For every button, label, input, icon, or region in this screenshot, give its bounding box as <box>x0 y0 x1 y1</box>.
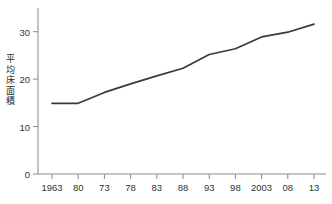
x-tick-label-3: 78 <box>125 182 136 193</box>
x-tick-label-2: 73 <box>99 182 110 193</box>
x-tick-label-5: 88 <box>178 182 189 193</box>
x-axis-ticks <box>52 174 314 179</box>
y-tick-label-30: 30 <box>8 26 30 37</box>
x-tick-label-1: 80 <box>73 182 84 193</box>
x-tick-label-0: 1963 <box>41 182 62 193</box>
y-axis-ticks <box>33 32 38 174</box>
line-chart <box>0 0 332 204</box>
data-series-line <box>52 24 314 103</box>
x-tick-label-8: 2003 <box>251 182 272 193</box>
chart-screenshot: 平均床面積 0 10 20 <box>0 0 332 204</box>
x-tick-label-7: 98 <box>230 182 241 193</box>
y-tick-label-10: 10 <box>8 121 30 132</box>
x-tick-label-10: 13 <box>309 182 320 193</box>
y-tick-label-20: 20 <box>8 74 30 85</box>
x-tick-label-9: 08 <box>283 182 294 193</box>
y-tick-label-0: 0 <box>8 169 30 180</box>
x-tick-label-4: 83 <box>152 182 163 193</box>
x-tick-label-6: 93 <box>204 182 215 193</box>
